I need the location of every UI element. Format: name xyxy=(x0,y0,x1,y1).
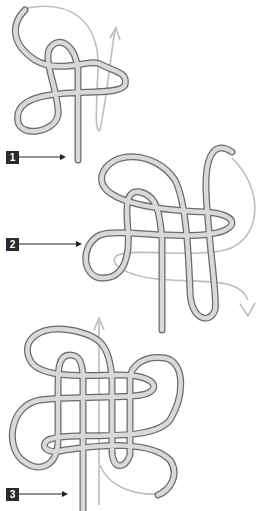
step-1-badge: 1 xyxy=(6,151,19,164)
step-2-badge: 2 xyxy=(6,238,19,251)
step-3-badge: 3 xyxy=(6,488,19,501)
step-1-diagram xyxy=(15,6,125,160)
knot-illustration xyxy=(0,0,269,511)
step-2-diagram xyxy=(86,148,255,330)
step-1-pointer-arrow xyxy=(19,154,66,160)
step-3-diagram xyxy=(12,318,180,511)
step-3-pointer-arrow xyxy=(19,491,68,497)
step-2-pointer-arrow xyxy=(19,241,82,247)
